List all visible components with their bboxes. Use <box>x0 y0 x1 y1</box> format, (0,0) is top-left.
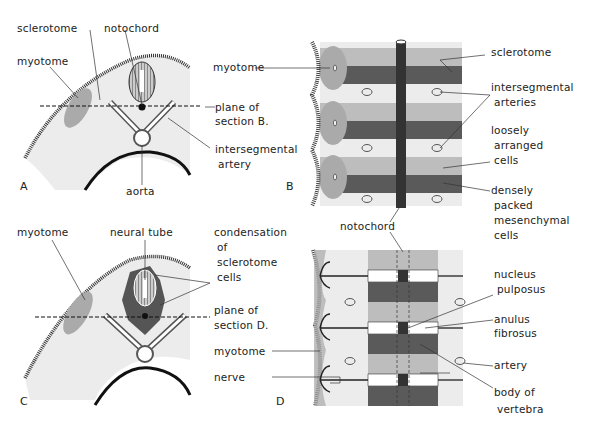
label-aorta: aorta <box>126 185 155 198</box>
label-dense-1: densely <box>491 184 533 197</box>
label-notochord-b: notochord <box>340 220 395 233</box>
label-sclerotome-b: sclerotome <box>491 46 551 59</box>
label-loose-3: cells <box>494 154 519 167</box>
label-condensation-1: condensation <box>214 226 287 239</box>
label-notochord-a: notochord <box>104 22 159 35</box>
label-myotome-c: myotome <box>17 226 69 239</box>
label-myotome-d: myotome <box>214 345 266 358</box>
label-dense-3: mesenchymal <box>494 214 570 227</box>
label-intersegmental-a-2: artery <box>218 158 251 171</box>
label-anulus-1: anulus <box>494 313 530 326</box>
label-loose-2: arranged <box>494 139 543 152</box>
label-myotome-a: myotome <box>17 55 69 68</box>
label-intersegmental-a-1: intersegmental <box>215 143 298 156</box>
label-sclerotome-a: sclerotome <box>17 22 77 35</box>
panel-c-drawing <box>25 240 210 405</box>
panel-b-drawing <box>255 40 490 222</box>
label-nerve: nerve <box>214 371 245 384</box>
panel-letter-a: A <box>20 180 28 193</box>
label-plane-c-2: section D. <box>214 319 269 332</box>
label-condensation-4: cells <box>217 271 242 284</box>
label-plane-a-2: section B. <box>215 115 269 128</box>
label-body-2: vertebra <box>497 403 544 416</box>
label-arteries-b-2: arteries <box>494 96 536 109</box>
label-dense-2: packed <box>494 199 533 212</box>
label-myotome-b: myotome <box>213 61 265 74</box>
label-nucleus-1: nucleus <box>494 268 536 281</box>
label-anulus-2: fibrosus <box>494 327 537 340</box>
label-dense-4: cells <box>494 229 519 242</box>
label-plane-c-1: plane of <box>214 304 258 317</box>
label-condensation-3: sclerotome <box>217 256 277 269</box>
label-plane-a-1: plane of <box>215 101 259 114</box>
label-loose-1: loosely <box>491 124 529 137</box>
label-body-1: body of <box>494 386 535 399</box>
label-artery-d: artery <box>494 359 527 372</box>
label-arteries-b-1: intersegmental <box>491 81 574 94</box>
panel-d-drawing <box>272 232 493 406</box>
label-condensation-2: of <box>217 241 228 254</box>
panel-a-drawing <box>25 30 215 190</box>
label-neural-tube: neural tube <box>110 226 173 239</box>
panel-letter-c: C <box>20 395 28 408</box>
label-nucleus-2: pulposus <box>497 283 546 296</box>
panel-letter-b: B <box>286 180 294 193</box>
panel-letter-d: D <box>276 395 284 408</box>
